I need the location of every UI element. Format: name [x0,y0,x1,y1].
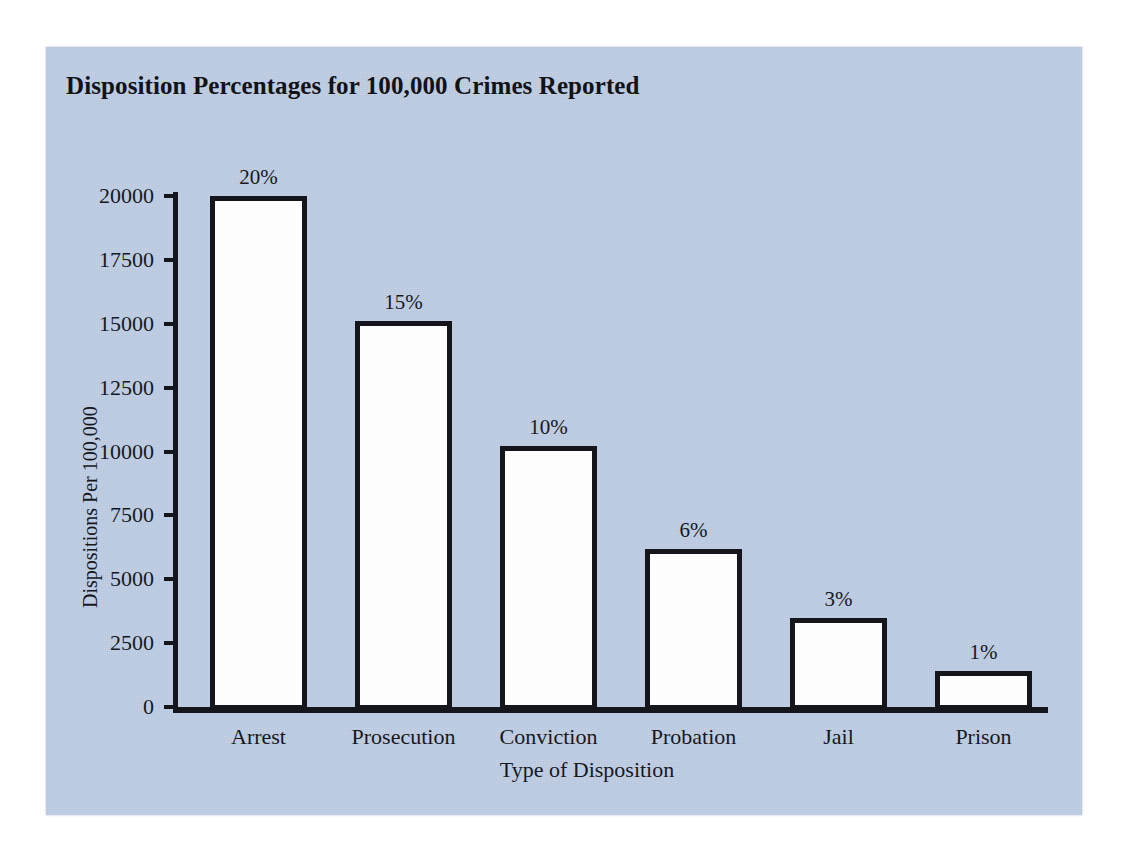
y-axis-tick [164,577,174,581]
y-axis-tick-label: 12500 [99,375,154,401]
bar [935,671,1032,710]
bar [645,549,742,710]
y-axis-tick [164,450,174,454]
y-axis-title: Dispositions Per 100,000 [79,584,102,608]
y-axis-tick-label: 7500 [110,502,154,528]
category-label: Probation [651,724,737,750]
bar-value-label: 1% [970,640,998,665]
bar [355,321,452,710]
chart-page: Disposition Percentages for 100,000 Crim… [0,0,1130,864]
y-axis-tick [164,641,174,645]
y-axis-tick [164,513,174,517]
y-axis-tick-label: 5000 [110,566,154,592]
chart-title: Disposition Percentages for 100,000 Crim… [66,72,640,100]
y-axis-tick-label: 20000 [99,183,154,209]
category-label: Prosecution [352,724,456,750]
bar-value-label: 15% [384,290,423,315]
bar-value-label: 6% [680,518,708,543]
bar [790,618,887,710]
plot-area: 02500500075001000012500150001750020000 2… [178,196,1048,707]
category-label: Arrest [231,724,286,750]
y-axis-tick [164,194,174,198]
category-label: Conviction [500,724,598,750]
bar-value-label: 3% [825,587,853,612]
y-axis-tick-label: 0 [143,694,154,720]
y-axis-tick-label: 15000 [99,311,154,337]
y-axis-tick [164,322,174,326]
bar [210,196,307,710]
bar [500,446,597,710]
bar-value-label: 20% [239,165,278,190]
y-axis-tick [164,258,174,262]
category-label: Prison [955,724,1011,750]
y-axis-tick-label: 10000 [99,439,154,465]
y-axis-tick-label: 17500 [99,247,154,273]
category-label: Jail [823,724,854,750]
y-axis-tick [164,705,174,709]
y-axis-tick [164,386,174,390]
bar-value-label: 10% [529,415,568,440]
y-axis-tick-label: 2500 [110,630,154,656]
x-axis-title: Type of Disposition [0,757,1130,783]
